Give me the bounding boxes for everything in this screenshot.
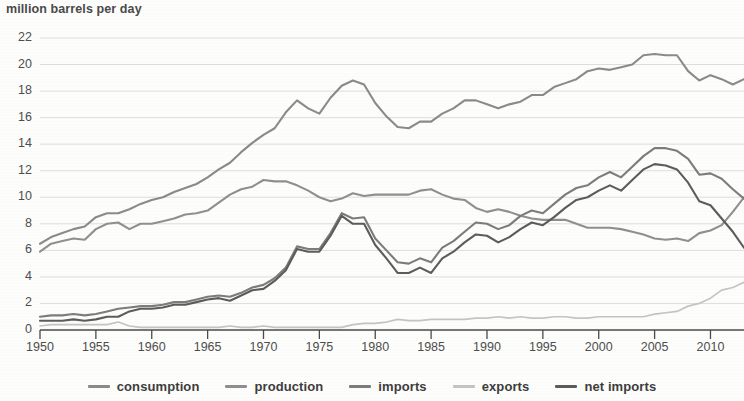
x-tick-label: 1990 (465, 341, 509, 354)
legend-label: consumption (117, 379, 200, 394)
x-tick-label: 1985 (409, 341, 453, 354)
x-tick-marks-group (40, 330, 710, 339)
x-tick-label: 1955 (74, 341, 118, 354)
legend-item-net-imports[interactable]: net imports (555, 379, 656, 394)
y-tick-label: 6 (2, 243, 32, 255)
y-tick-label: 22 (2, 31, 32, 43)
x-tick-label: 1980 (353, 341, 397, 354)
y-tick-label: 20 (2, 58, 32, 70)
y-tick-label: 16 (2, 111, 32, 123)
legend-swatch-icon (88, 385, 110, 388)
x-tick-label: 1965 (186, 341, 230, 354)
y-tick-label: 4 (2, 270, 32, 282)
legend-label: exports (482, 379, 530, 394)
legend-item-production[interactable]: production (225, 379, 323, 394)
series-line-exports (40, 282, 744, 327)
legend-label: production (254, 379, 323, 394)
gridlines-group (40, 38, 744, 303)
y-tick-label: 10 (2, 190, 32, 202)
y-tick-label: 14 (2, 137, 32, 149)
legend-item-consumption[interactable]: consumption (88, 379, 200, 394)
legend-swatch-icon (349, 385, 371, 388)
y-tick-label: 0 (2, 323, 32, 335)
x-tick-label: 1950 (18, 341, 62, 354)
y-tick-label: 8 (2, 217, 32, 229)
legend-item-imports[interactable]: imports (349, 379, 426, 394)
series-line-production (40, 180, 744, 252)
chart-figure: million barrels per day 0246810121416182… (0, 0, 744, 401)
legend-swatch-icon (555, 385, 577, 388)
series-line-consumption (40, 54, 744, 244)
y-tick-label: 18 (2, 84, 32, 96)
x-tick-label: 2005 (633, 341, 677, 354)
legend-label: imports (378, 379, 426, 394)
y-tick-label: 2 (2, 296, 32, 308)
x-tick-label: 1970 (241, 341, 285, 354)
legend-swatch-icon (453, 385, 475, 388)
chart-legend: consumptionproductionimportsexportsnet i… (0, 372, 744, 401)
y-tick-label: 12 (2, 164, 32, 176)
series-line-net-imports (40, 164, 744, 321)
legend-item-exports[interactable]: exports (453, 379, 530, 394)
x-tick-label: 1960 (130, 341, 174, 354)
x-tick-label: 2000 (577, 341, 621, 354)
legend-swatch-icon (225, 385, 247, 388)
data-series-group (40, 54, 744, 327)
x-tick-label: 1975 (297, 341, 341, 354)
x-tick-label: 1995 (521, 341, 565, 354)
x-tick-label: 2010 (688, 341, 732, 354)
legend-label: net imports (584, 379, 656, 394)
